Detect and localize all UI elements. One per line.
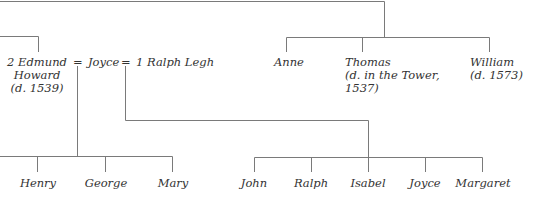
person-note-line2: 1537)	[345, 82, 440, 95]
person-edmund-howard: 2 Edmund Howard (d. 1539)	[4, 56, 70, 95]
person-note: (d. 1539)	[4, 82, 70, 95]
marriage-sign: =	[73, 56, 83, 69]
person-henry: Henry	[12, 177, 64, 190]
person-isabel: Isabel	[346, 177, 390, 190]
person-ralph: Ralph	[289, 177, 333, 190]
person-thomas: Thomas (d. in the Tower, 1537)	[345, 56, 440, 95]
person-anne: Anne	[274, 56, 304, 69]
person-note: (d. 1573)	[470, 69, 510, 82]
person-william: William (d. 1573)	[470, 56, 510, 82]
person-ralph-legh: 1 Ralph Legh	[136, 56, 214, 69]
person-george: George	[80, 177, 132, 190]
person-margaret: Margaret	[452, 177, 514, 190]
person-joyce: Joyce	[88, 56, 119, 69]
marriage-sign: =	[121, 56, 131, 69]
person-mary: Mary	[147, 177, 199, 190]
tree-connectors	[0, 0, 539, 198]
person-joyce-legh: Joyce	[403, 177, 447, 190]
family-tree: 2 Edmund Howard (d. 1539) = Joyce = 1 Ra…	[0, 0, 539, 198]
person-john: John	[232, 177, 276, 190]
